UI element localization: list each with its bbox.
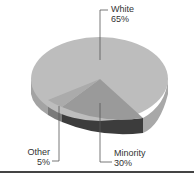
- label-minority-pct: 30%: [114, 158, 146, 168]
- label-other-pct: 5%: [20, 157, 50, 167]
- label-other: Other 5%: [20, 147, 50, 167]
- pie-top: [31, 37, 168, 121]
- label-minority: Minority 30%: [114, 148, 146, 168]
- bottom-rule: [0, 171, 194, 173]
- label-white-pct: 65%: [111, 14, 134, 24]
- label-white-name: White: [111, 4, 134, 14]
- label-minority-name: Minority: [114, 148, 146, 158]
- label-white: White 65%: [111, 4, 134, 24]
- label-other-name: Other: [20, 147, 50, 157]
